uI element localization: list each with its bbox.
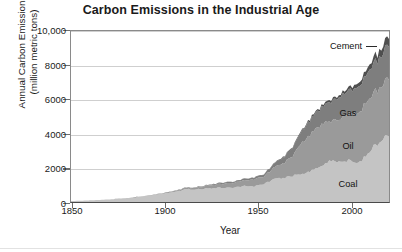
y-tick-label: 2000 (45, 163, 66, 174)
y-axis-label-line1: Annual Carbon Emissions (16, 0, 28, 142)
x-tick-label: 2000 (341, 205, 362, 216)
series-annotation-cement: Cement (330, 41, 362, 51)
y-tick-label: 4000 (45, 128, 66, 139)
series-annotation-coal: Coal (339, 179, 358, 189)
x-tick-label: 1950 (247, 205, 268, 216)
x-tick-label: 1850 (61, 205, 82, 216)
series-annotation-oil: Oil (342, 141, 353, 151)
x-axis-label: Year (70, 225, 390, 236)
series-annotation-gas: Gas (340, 108, 357, 118)
y-axis-label-line2: (million metric tons) (28, 0, 40, 142)
chart-title: Carbon Emissions in the Industrial Age (0, 3, 402, 17)
y-tick-label: 6000 (45, 94, 66, 105)
chart-figure: Carbon Emissions in the Industrial Age 1… (0, 0, 402, 252)
bottom-rule (0, 248, 402, 249)
cement-leader-line (366, 46, 377, 47)
y-axis-label: Annual Carbon Emissions (million metric … (16, 0, 40, 142)
x-tick-label: 1900 (154, 205, 175, 216)
y-tick-label: 10,000 (37, 25, 66, 36)
y-tick-label: 8000 (45, 59, 66, 70)
